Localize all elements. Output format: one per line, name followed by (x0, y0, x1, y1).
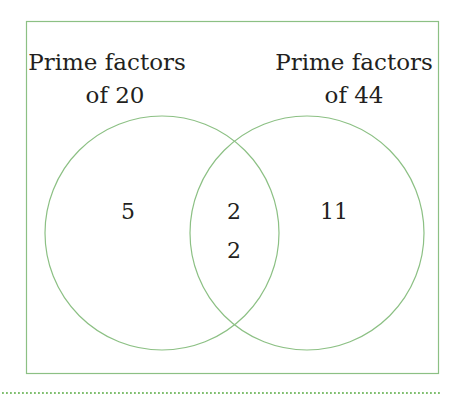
set-a-circle (45, 116, 279, 350)
set-a-label-line2: of 20 (86, 82, 145, 108)
set-a-label-line1: Prime factors (28, 49, 186, 75)
set-b-only-value: 11 (320, 199, 348, 224)
intersection-value-2: 2 (227, 238, 241, 263)
set-a-only-value: 5 (121, 199, 135, 224)
venn-diagram: Prime factors of 20 Prime factors of 44 … (0, 0, 463, 398)
set-b-label-line2: of 44 (325, 82, 384, 108)
set-b-circle (190, 116, 424, 350)
set-b-label-line1: Prime factors (275, 49, 433, 75)
intersection-value-1: 2 (227, 199, 241, 224)
